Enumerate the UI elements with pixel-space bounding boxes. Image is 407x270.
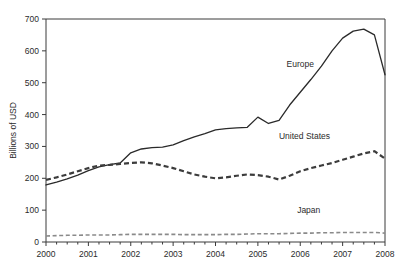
series-label-europe: Europe <box>287 59 315 69</box>
x-tick-label: 2001 <box>79 249 98 259</box>
series-group <box>46 29 385 236</box>
y-axis-title: Billions of USD <box>8 102 18 159</box>
x-tick-label: 2002 <box>121 249 140 259</box>
x-tick-label: 2005 <box>248 249 267 259</box>
x-axis-ticks: 200020012002200320042005200620072008 <box>37 242 395 259</box>
y-tick-label: 100 <box>25 205 39 215</box>
y-tick-label: 700 <box>25 14 39 24</box>
x-tick-label: 2006 <box>291 249 310 259</box>
x-tick-label: 2004 <box>206 249 225 259</box>
y-tick-label: 0 <box>34 237 39 247</box>
line-chart: 0100200300400500600700 20002001200220032… <box>0 0 407 270</box>
series-label-japan: Japan <box>297 205 320 215</box>
x-tick-label: 2000 <box>37 249 56 259</box>
series-line-japan <box>46 232 385 236</box>
y-tick-label: 200 <box>25 173 39 183</box>
chart-canvas: 0100200300400500600700 20002001200220032… <box>0 0 407 270</box>
y-tick-label: 500 <box>25 78 39 88</box>
series-line-europe <box>46 29 385 185</box>
series-label-united-states: United States <box>279 131 330 141</box>
x-tick-label: 2007 <box>333 249 352 259</box>
x-tick-label: 2008 <box>376 249 395 259</box>
series-annotations: EuropeUnited StatesJapan <box>279 59 330 215</box>
x-tick-label: 2003 <box>164 249 183 259</box>
y-axis-title-text: Billions of USD <box>8 102 18 159</box>
y-axis-ticks: 0100200300400500600700 <box>25 14 46 247</box>
y-tick-label: 600 <box>25 46 39 56</box>
y-tick-label: 400 <box>25 110 39 120</box>
y-tick-label: 300 <box>25 141 39 151</box>
series-line-united-states <box>46 151 385 180</box>
